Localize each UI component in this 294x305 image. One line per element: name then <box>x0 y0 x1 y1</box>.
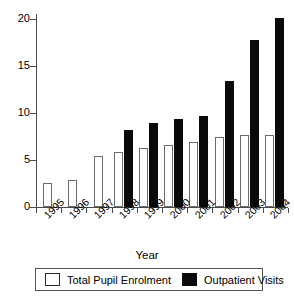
bar-outpatient-visits <box>149 123 158 207</box>
y-axis-tick-label: 10 <box>4 107 30 118</box>
y-axis-tick-label-wrap: 5 <box>0 154 30 165</box>
bar-total-pupil-enrolment <box>240 135 249 207</box>
x-axis-tick <box>288 208 289 213</box>
y-axis-tick-label-wrap: 10 <box>0 107 30 118</box>
bar-total-pupil-enrolment <box>139 148 148 207</box>
y-axis-tick-label: 20 <box>4 13 30 24</box>
bar-outpatient-visits <box>275 18 284 207</box>
bar-outpatient-visits <box>250 40 259 207</box>
legend-entry-outpatient-visits: Outpatient Visits <box>182 273 284 286</box>
bar-chart-figure: 05101520 1995199619971998199920002001200… <box>0 0 294 305</box>
plot-area <box>36 14 288 207</box>
y-axis-tick-label: 0 <box>4 201 30 212</box>
legend-entry-total-pupil-enrolment: Total Pupil Enrolment <box>45 273 171 286</box>
bar-total-pupil-enrolment <box>114 152 123 207</box>
bar-total-pupil-enrolment <box>215 137 224 207</box>
bar-outpatient-visits <box>199 116 208 207</box>
y-axis-tick-label-wrap: 15 <box>0 60 30 71</box>
legend-label-outpatient-visits: Outpatient Visits <box>204 274 284 286</box>
x-axis-tick-labels: 1995199619971998199920002001200220032004 <box>36 213 288 251</box>
legend-swatch-black-square-icon <box>182 273 197 286</box>
bar-total-pupil-enrolment <box>94 156 103 207</box>
bar-outpatient-visits <box>225 81 234 207</box>
legend-label-total-pupil-enrolment: Total Pupil Enrolment <box>67 274 171 286</box>
y-axis-tick-label-wrap: 0 <box>0 201 30 212</box>
chart-legend: Total Pupil Enrolment Outpatient Visits <box>35 268 263 291</box>
y-axis-tick-label: 5 <box>4 154 30 165</box>
x-axis-title: Year <box>0 249 294 262</box>
bar-total-pupil-enrolment <box>265 135 274 207</box>
bar-total-pupil-enrolment <box>189 142 198 207</box>
y-axis-tick-label: 15 <box>4 60 30 71</box>
bar-outpatient-visits <box>174 119 183 207</box>
bar-total-pupil-enrolment <box>164 145 173 207</box>
legend-swatch-white-square-icon <box>45 273 60 286</box>
y-axis-tick-label-wrap: 20 <box>0 13 30 24</box>
